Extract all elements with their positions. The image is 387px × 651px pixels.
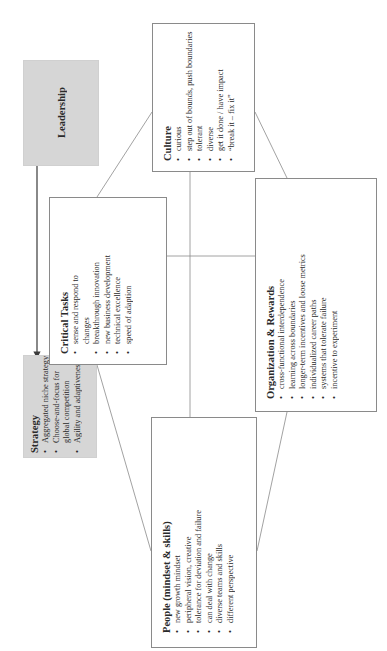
organization-rewards-box: Organization & Rewards cross-functional …: [255, 178, 377, 412]
list-item: systems that tolerate failure: [319, 191, 330, 399]
organization-rewards-list: cross-functional interdependence learnin…: [277, 191, 340, 399]
list-item: peripheral vision, creative: [184, 432, 195, 633]
critical-tasks-title: Critical Tasks: [58, 209, 71, 354]
critical-tasks-list: sense and respond to changes breakthroug…: [71, 208, 134, 354]
leadership-box: Leadership: [23, 60, 99, 166]
people-list: new growth mindset peripheral vision, cr…: [173, 432, 236, 633]
list-item: tolerant: [195, 34, 206, 161]
list-item: Agility and adaptiveness: [73, 360, 84, 453]
critical-to-culture-line: [97, 112, 152, 197]
culture-box: Culture curious step out of bounds, push…: [152, 23, 255, 172]
list-item: speed of adaption: [124, 208, 135, 354]
list-item: sense and respond to changes: [71, 272, 92, 354]
strategy-title: Strategy: [28, 361, 41, 453]
list-item: different perspective: [226, 432, 237, 633]
list-item: new growth mindset: [173, 432, 184, 633]
org-to-people-line: [257, 412, 287, 551]
list-item: diverse teams and skills: [215, 432, 226, 633]
people-box: People (mindset & skills) new growth min…: [151, 417, 257, 648]
strategy-list: Aggregated niche strategy Choose-and-foc…: [41, 360, 83, 453]
people-title: People (mindset & skills): [160, 433, 173, 633]
culture-list: curious step out of bounds, push boundar…: [174, 34, 237, 161]
list-item: “break it – fix it”: [227, 34, 238, 161]
list-item: learning across boundaries: [288, 191, 299, 399]
list-item: longer-term incentives and loose metrics: [298, 254, 309, 399]
list-item: Aggregated niche strategy: [41, 360, 52, 453]
culture-to-org-line: [255, 112, 287, 178]
critical-tasks-box: Critical Tasks sense and respond to chan…: [49, 197, 167, 365]
list-item: tolerance for deviation and failure: [194, 432, 205, 633]
list-item: cross-functional interdependence: [277, 191, 288, 399]
organization-rewards-title: Organization & Rewards: [264, 192, 277, 399]
critical-to-people-line: [97, 365, 151, 551]
list-item: breakthrough innovation: [92, 208, 103, 354]
list-item: individualized career paths: [309, 191, 320, 399]
strategy-box: Strategy Aggregated niche strategy Choos…: [23, 355, 97, 458]
list-item: can deal with change: [205, 432, 216, 633]
list-item: new business development: [103, 208, 114, 354]
list-item: step out of bounds, push boundaries: [185, 34, 196, 161]
list-item: technical excellence: [113, 208, 124, 354]
culture-title: Culture: [161, 35, 174, 161]
list-item: get it done / have impact: [216, 34, 227, 161]
leadership-label: Leadership: [56, 88, 67, 139]
list-item: incentive to experiment: [330, 191, 341, 399]
list-item: diverse: [206, 34, 217, 161]
list-item: curious: [174, 34, 185, 161]
list-item: Choose-and-focus for global competition: [52, 351, 73, 453]
